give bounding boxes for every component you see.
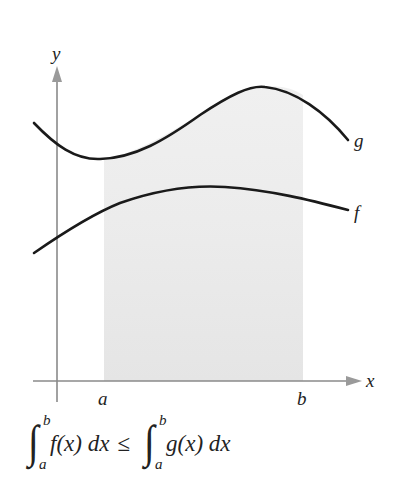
right-integral: ∫ b a [144,416,166,472]
right-integrand: g(x) dx [166,431,231,457]
shaded-region [104,86,303,381]
y-axis-label: y [50,43,61,64]
x-axis-arrow-icon [346,376,362,386]
left-integral: ∫ b a [28,416,50,472]
x-axis-label: x [365,370,375,391]
integral-sign-icon: ∫ [144,414,155,470]
lower-limit: a [155,456,163,473]
curve-f-label: f [354,202,362,223]
upper-limit: b [159,412,167,429]
lower-limit: a [39,456,47,473]
y-axis-arrow-icon [52,66,62,82]
left-integrand: f(x) dx [50,431,109,457]
interval-b-label: b [297,388,307,409]
interval-a-label: a [98,388,108,409]
relation-symbol: ≤ [117,431,130,457]
upper-limit: b [43,412,51,429]
integral-sign-icon: ∫ [28,414,39,470]
integral-inequality: ∫ b a f(x) dx ≤ ∫ b a g(x) dx [28,414,231,474]
curve-g-label: g [354,130,364,151]
